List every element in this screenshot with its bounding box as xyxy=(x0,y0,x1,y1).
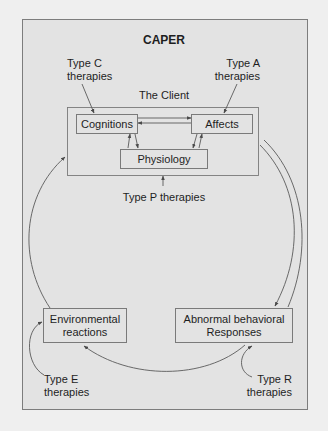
type-c-line2: therapies xyxy=(67,70,112,83)
connector-arrows xyxy=(0,0,328,431)
client-label: The Client xyxy=(0,89,328,102)
environmental-reactions-node: Environmental reactions xyxy=(43,308,127,343)
affects-label: Affects xyxy=(205,118,238,131)
type-c-line1: Type C xyxy=(67,57,112,70)
type-p-label: Type P therapies xyxy=(0,191,328,204)
type-a-line2: therapies xyxy=(212,70,260,83)
diagram-title: CAPER xyxy=(0,34,328,47)
abnormal-responses-node: Abnormal behavioral Responses xyxy=(175,308,293,343)
environmental-line2: reactions xyxy=(63,326,108,339)
type-e-line1: Type E xyxy=(44,373,89,386)
type-r-line1: Type R xyxy=(240,373,292,386)
physiology-node: Physiology xyxy=(120,149,208,169)
type-r-line2: therapies xyxy=(240,386,292,399)
cognitions-node: Cognitions xyxy=(76,114,138,134)
type-e-line2: therapies xyxy=(44,386,89,399)
type-a-line1: Type A xyxy=(212,57,260,70)
type-a-label: Type A therapies xyxy=(212,57,260,83)
responses-line2: Responses xyxy=(206,326,261,339)
type-c-label: Type C therapies xyxy=(67,57,112,83)
cognitions-label: Cognitions xyxy=(81,118,133,131)
responses-line1: Abnormal behavioral xyxy=(184,313,285,326)
environmental-line1: Environmental xyxy=(50,313,120,326)
physiology-label: Physiology xyxy=(137,153,190,166)
type-r-label: Type R therapies xyxy=(240,373,292,399)
type-e-label: Type E therapies xyxy=(44,373,89,399)
affects-node: Affects xyxy=(191,114,253,134)
